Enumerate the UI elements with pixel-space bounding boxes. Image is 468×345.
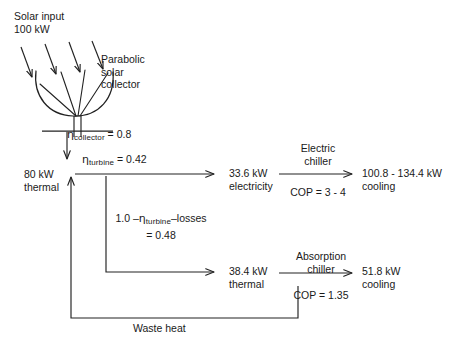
absorption-chiller-line1: Absorption (296, 250, 346, 262)
thermal-stream-line1: 38.4 kW (229, 265, 268, 277)
eta-collector-label: ηcollector = 0.8 (67, 128, 131, 145)
eta-symbol: η (139, 212, 146, 225)
collector-name-line3: collector (101, 78, 140, 90)
eta-symbol: η (67, 128, 74, 141)
electric-output-line2: cooling (362, 180, 395, 192)
electric-chiller-line1: Electric (301, 142, 335, 154)
eta-symbol: η (82, 153, 89, 166)
absorption-chiller-line2: chiller (307, 263, 334, 275)
sun-ray-arrow-icon (21, 41, 103, 77)
collector-name-line2: solar (101, 66, 124, 78)
absorption-output-line2: cooling (362, 278, 395, 290)
electricity-stream-line1: 33.6 kW (229, 167, 268, 179)
thermal-stream-line2: thermal (229, 278, 264, 290)
collector-name-line1: Parabolic (101, 53, 145, 65)
electric-chiller-label: Electricchiller (283, 142, 353, 167)
collector-output-line2: thermal (24, 181, 59, 193)
loss-prefix: 1.0 – (115, 212, 138, 224)
electricity-stream-line2: electricity (229, 180, 273, 192)
collector-output-line1: 80 kW (24, 168, 54, 180)
eta-collector-subscript: collector (74, 133, 105, 142)
electric-output-line1: 100.8 - 134.4 kW (362, 167, 442, 179)
eta-turbine-subscript: turbine (89, 158, 114, 167)
absorption-output-line1: 51.8 kW (362, 265, 401, 277)
collector-output-label: 80 kWthermal (24, 168, 59, 193)
thermal-stream-label: 38.4 kWthermal (229, 265, 268, 290)
solar-input-line1: Solar input (14, 10, 64, 22)
loss-value: = 0.48 (146, 229, 176, 241)
eta-turbine-label: ηturbine = 0.42 (82, 153, 147, 170)
electric-chiller-line2: chiller (304, 155, 331, 167)
absorption-chiller-label: Absorptionchiller (283, 250, 359, 275)
solar-input-line2: 100 kW (14, 23, 50, 35)
absorption-chiller-cop-label: COP = 1.35 (283, 289, 359, 302)
solar-input-label: Solar input100 kW (14, 10, 64, 35)
eta-collector-value: = 0.8 (105, 128, 132, 140)
absorption-cooling-output-label: 51.8 kWcooling (362, 265, 401, 290)
loss-subscript: turbine (146, 217, 171, 226)
waste-heat-label: Waste heat (133, 322, 186, 335)
electricity-stream-label: 33.6 kWelectricity (229, 167, 273, 192)
loss-suffix: –losses (171, 212, 207, 224)
collector-name-label: Parabolicsolarcollector (101, 53, 145, 91)
electric-chiller-cop-label: COP = 3 - 4 (283, 186, 353, 199)
electric-cooling-output-label: 100.8 - 134.4 kWcooling (362, 167, 442, 192)
energy-flow-diagram: Solar input100 kW Parabolicsolarcollecto… (0, 0, 468, 345)
eta-turbine-value: = 0.42 (114, 153, 146, 165)
loss-fraction-label: 1.0 –ηturbine–losses= 0.48 (102, 212, 220, 241)
waste-heat-return-arrow (71, 177, 298, 318)
